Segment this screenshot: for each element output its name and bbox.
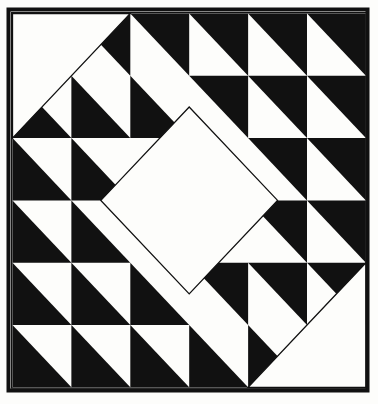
artboard: Quilt Block Pattern xyxy=(0,0,378,404)
quilt-block-figure: Quilt Block Pattern xyxy=(0,0,378,404)
